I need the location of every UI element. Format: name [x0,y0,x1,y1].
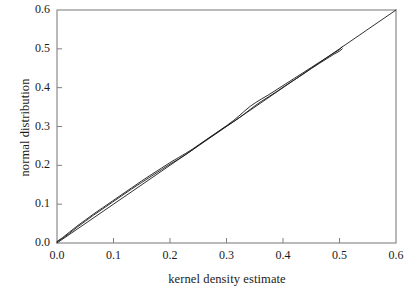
qq-plot-figure: 0.00.10.20.30.40.50.6 0.00.10.20.30.40.5… [0,0,412,300]
x-tick-label-2: 0.2 [150,248,190,263]
x-tick-label-4: 0.4 [263,248,303,263]
x-axis-title: kernel density estimate [57,272,397,287]
y-tick-label-6: 0.6 [2,2,50,17]
x-tick-label-0: 0.0 [37,248,77,263]
x-tick-label-1: 0.1 [94,248,134,263]
y-tick-label-0: 0.0 [2,235,50,250]
x-tick-label-3: 0.3 [207,248,247,263]
y-axis-title: normal distribution [18,43,33,213]
x-tick-label-6: 0.6 [376,248,412,263]
x-tick-label-5: 0.5 [320,248,360,263]
